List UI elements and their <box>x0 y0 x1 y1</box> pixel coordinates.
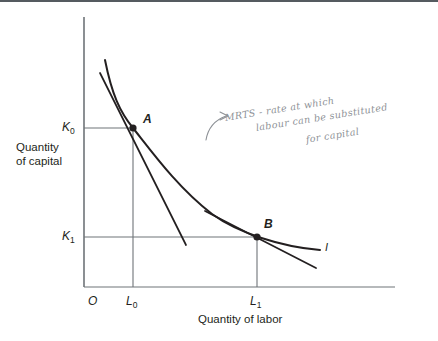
point-label-a: A <box>143 112 152 126</box>
y-tick-k1: K1 <box>62 229 75 245</box>
y-axis-label-line2: of capital <box>16 155 62 169</box>
x-tick-l1-base: L <box>250 294 257 308</box>
y-tick-k1-sub: 1 <box>70 235 75 245</box>
x-tick-l0-base: L <box>126 294 133 308</box>
tangent-line-at-a <box>100 73 186 245</box>
x-tick-l0-sub: 0 <box>133 300 138 310</box>
x-tick-l0: L0 <box>126 294 137 310</box>
origin-label: O <box>88 294 97 308</box>
tangent-line-at-b <box>205 211 316 268</box>
point-marker-a <box>129 124 136 131</box>
y-tick-k1-base: K <box>62 229 70 243</box>
y-tick-k0-base: K <box>62 120 70 134</box>
handwritten-arrow-icon <box>206 116 226 140</box>
point-label-b: B <box>264 217 273 231</box>
isoquant-label: I <box>325 241 328 254</box>
y-tick-k0-sub: 0 <box>70 126 75 136</box>
y-axis-label: Quantity of capital <box>16 141 62 168</box>
point-marker-b <box>253 233 260 240</box>
isoquant-curve <box>105 60 320 250</box>
x-tick-l1: L1 <box>250 294 261 310</box>
isoquant-diagram <box>0 0 438 341</box>
x-axis-label: Quantity of labor <box>198 313 282 327</box>
x-tick-l1-sub: 1 <box>257 300 262 310</box>
y-tick-k0: K0 <box>62 120 75 136</box>
y-axis-label-line1: Quantity <box>16 141 62 155</box>
